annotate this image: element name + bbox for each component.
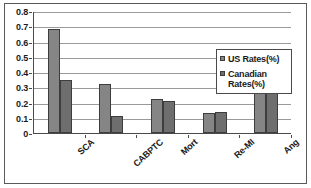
y-tick-mark — [29, 58, 32, 59]
y-tick-label: 0.7 — [16, 22, 28, 32]
bar — [48, 29, 60, 133]
bar — [99, 84, 111, 133]
bar — [60, 80, 72, 133]
bar — [254, 92, 266, 133]
x-tick-label: Mort — [179, 137, 200, 157]
chart-legend: US Rates(%) Canadian Rates(%) — [216, 49, 292, 94]
x-tick-mark — [136, 135, 137, 138]
y-tick-label: 0.4 — [16, 68, 28, 78]
legend-swatch-icon — [220, 71, 225, 76]
x-tick-label: CABPTC — [132, 137, 166, 169]
bar — [215, 112, 227, 133]
bar-group — [137, 12, 189, 133]
bar — [111, 116, 123, 133]
y-tick-label: 0.3 — [16, 83, 28, 93]
legend-item: Canadian Rates(%) — [220, 69, 288, 89]
bar-group — [34, 12, 86, 133]
x-tick-mark — [85, 135, 86, 138]
x-tick-mark — [188, 135, 189, 138]
legend-item: US Rates(%) — [220, 54, 288, 64]
y-tick-mark — [29, 73, 32, 74]
y-axis: 0.80.70.60.50.40.30.20.10 — [4, 12, 32, 134]
y-tick-label: 0 — [23, 129, 28, 139]
legend-item-label: US Rates(%) — [228, 54, 279, 64]
y-tick-label: 0.2 — [16, 99, 28, 109]
x-tick-label: Re-MI — [232, 137, 256, 160]
y-tick-mark — [29, 27, 32, 28]
legend-swatch-icon — [220, 56, 225, 61]
y-tick-mark — [29, 134, 32, 135]
x-axis: SCACABPTCMortRe-MIAng — [33, 135, 291, 175]
bar-group — [86, 12, 138, 133]
y-tick-label: 0.1 — [16, 114, 28, 124]
bar — [203, 113, 215, 133]
legend-item-label: Canadian Rates(%) — [228, 69, 288, 89]
x-tick-label: SCA — [76, 137, 96, 157]
y-tick-label: 0.8 — [16, 7, 28, 17]
bar — [163, 101, 175, 133]
y-tick-mark — [29, 104, 32, 105]
y-tick-mark — [29, 43, 32, 44]
x-tick-mark — [239, 135, 240, 138]
chart-container: 0.80.70.60.50.40.30.20.10 SCACABPTCMortR… — [0, 0, 311, 188]
y-tick-mark — [29, 12, 32, 13]
y-tick-mark — [29, 119, 32, 120]
y-tick-label: 0.5 — [16, 53, 28, 63]
bar — [151, 99, 163, 133]
y-tick-label: 0.6 — [16, 38, 28, 48]
y-tick-mark — [29, 88, 32, 89]
